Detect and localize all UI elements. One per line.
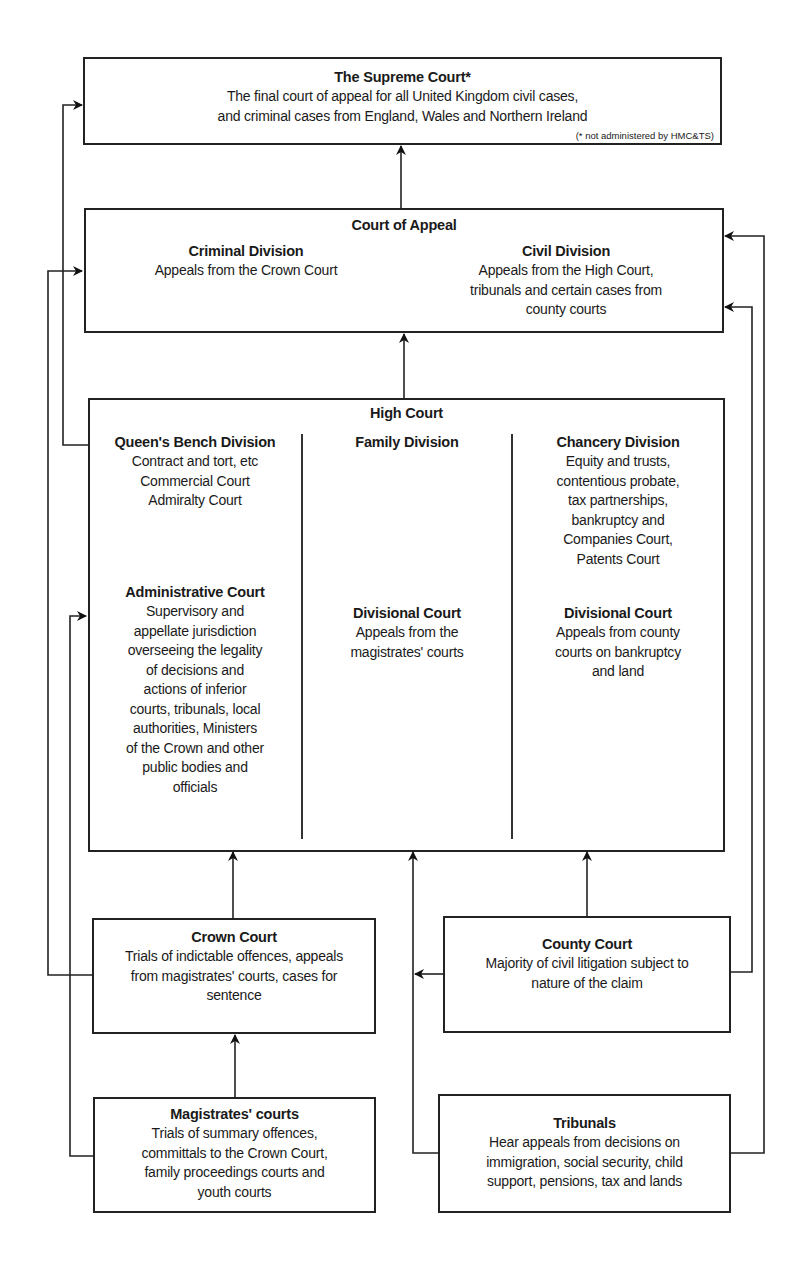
chancery-division: Chancery Division Equity and trusts, con… (512, 433, 724, 569)
magistrates-desc-line: youth courts (95, 1183, 374, 1203)
administrative-desc-line: officials (90, 778, 300, 798)
supreme-court-desc-line-1: The final court of appeal for all United… (85, 87, 720, 107)
queens-bench-division: Queen's Bench Division Contract and tort… (90, 433, 300, 511)
chancery-divisional-desc-line: Appeals from county (512, 623, 724, 643)
queens-bench-desc-line: Contract and tort, etc (90, 452, 300, 472)
criminal-division-desc: Appeals from the Crown Court (96, 261, 396, 281)
chancery-desc-line: bankruptcy and (512, 511, 724, 531)
supreme-court-footnote: (* not administered by HMC&TS) (576, 130, 714, 141)
administrative-court-title: Administrative Court (90, 583, 300, 602)
administrative-desc-line: courts, tribunals, local (90, 700, 300, 720)
family-divisional-desc-line: magistrates' courts (302, 643, 512, 663)
civil-division-desc-line: county courts (431, 300, 701, 320)
family-divisional-desc-line: Appeals from the (302, 623, 512, 643)
arrow-tribunals-to-highcourt (413, 852, 438, 1153)
family-divisional-court: Divisional Court Appeals from the magist… (302, 604, 512, 662)
queens-bench-title: Queen's Bench Division (90, 433, 300, 452)
administrative-desc-line: of the Crown and other (90, 739, 300, 759)
crown-court-desc-line: from magistrates' courts, cases for (94, 967, 374, 987)
chancery-divisional-desc-line: courts on bankruptcy (512, 643, 724, 663)
administrative-desc-line: Supervisory and (90, 602, 300, 622)
crown-court-box: Crown Court Trials of indictable offence… (92, 918, 376, 1034)
tribunals-desc-line: immigration, social security, child (440, 1153, 729, 1173)
administrative-desc-line: overseeing the legality (90, 641, 300, 661)
tribunals-desc-line: Hear appeals from decisions on (440, 1133, 729, 1153)
queens-bench-desc-line: Commercial Court (90, 472, 300, 492)
chancery-divisional-title: Divisional Court (512, 604, 724, 623)
civil-division-desc-line: tribunals and certain cases from (431, 281, 701, 301)
supreme-court-title: The Supreme Court* (85, 68, 720, 87)
chancery-desc-line: Patents Court (512, 550, 724, 570)
county-court-box: County Court Majority of civil litigatio… (443, 916, 731, 1033)
administrative-court: Administrative Court Supervisory and app… (90, 583, 300, 797)
civil-division: Civil Division Appeals from the High Cou… (431, 242, 701, 320)
magistrates-desc-line: family proceedings courts and (95, 1163, 374, 1183)
administrative-desc-line: of decisions and (90, 661, 300, 681)
crown-court-title: Crown Court (94, 928, 374, 947)
chancery-desc-line: Equity and trusts, (512, 452, 724, 472)
civil-division-desc-line: Appeals from the High Court, (431, 261, 701, 281)
supreme-court-desc-line-2: and criminal cases from England, Wales a… (85, 107, 720, 127)
chancery-desc-line: Companies Court, (512, 530, 724, 550)
tribunals-title: Tribunals (440, 1114, 729, 1133)
family-divisional-title: Divisional Court (302, 604, 512, 623)
magistrates-desc-line: committals to the Crown Court, (95, 1144, 374, 1164)
crown-court-desc-line: sentence (94, 986, 374, 1006)
county-court-desc-line: nature of the claim (445, 974, 729, 994)
county-court-title: County Court (445, 935, 729, 954)
high-court-box: High Court Queen's Bench Division Contra… (88, 398, 725, 852)
chancery-divisional-court: Divisional Court Appeals from county cou… (512, 604, 724, 682)
administrative-desc-line: authorities, Ministers (90, 719, 300, 739)
court-of-appeal-title: Court of Appeal (86, 216, 722, 235)
queens-bench-desc-line: Admiralty Court (90, 491, 300, 511)
tribunals-box: Tribunals Hear appeals from decisions on… (438, 1094, 731, 1213)
arrow-county-to-coa (725, 307, 752, 972)
chancery-desc-line: tax partnerships, (512, 491, 724, 511)
administrative-desc-line: actions of inferior (90, 680, 300, 700)
chancery-divisional-desc-line: and land (512, 662, 724, 682)
administrative-desc-line: public bodies and (90, 758, 300, 778)
civil-division-title: Civil Division (431, 242, 701, 261)
high-court-title: High Court (90, 404, 723, 423)
supreme-court-box: The Supreme Court* The final court of ap… (83, 57, 722, 145)
tribunals-desc-line: support, pensions, tax and lands (440, 1172, 729, 1192)
court-of-appeal-box: Court of Appeal Criminal Division Appeal… (84, 208, 724, 333)
magistrates-desc-line: Trials of summary offences, (95, 1124, 374, 1144)
magistrates-courts-box: Magistrates' courts Trials of summary of… (93, 1097, 376, 1213)
chancery-division-title: Chancery Division (512, 433, 724, 452)
chancery-desc-line: contentious probate, (512, 472, 724, 492)
family-division-title: Family Division (302, 433, 512, 452)
criminal-division-title: Criminal Division (96, 242, 396, 261)
administrative-desc-line: appellate jurisdiction (90, 622, 300, 642)
criminal-division: Criminal Division Appeals from the Crown… (96, 242, 396, 281)
crown-court-desc-line: Trials of indictable offences, appeals (94, 947, 374, 967)
magistrates-courts-title: Magistrates' courts (95, 1105, 374, 1124)
family-division: Family Division (302, 433, 512, 452)
county-court-desc-line: Majority of civil litigation subject to (445, 954, 729, 974)
